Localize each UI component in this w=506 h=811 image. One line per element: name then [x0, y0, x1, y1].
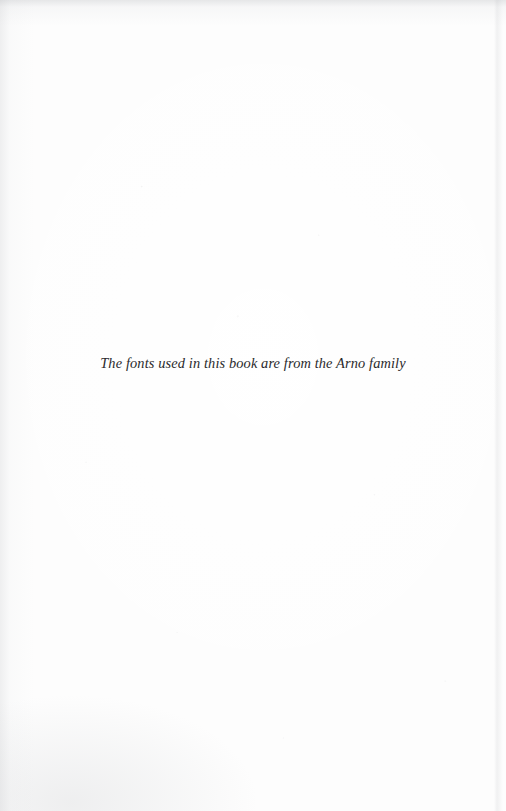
colophon-font-credit-line: The fonts used in this book are from the… [0, 353, 506, 373]
paper-grain-texture [0, 0, 506, 811]
scanned-book-page: The fonts used in this book are from the… [0, 0, 506, 811]
